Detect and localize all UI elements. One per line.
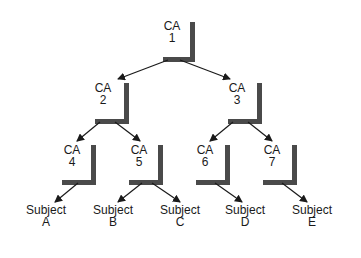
node-ca7: CA 7 bbox=[242, 144, 302, 168]
arrow-ca1-ca3 bbox=[180, 60, 230, 79]
node-ca6: CA 6 bbox=[175, 144, 235, 168]
node-ca1: CA 1 bbox=[142, 20, 202, 44]
arrow-ca3-ca7 bbox=[248, 122, 272, 141]
node-subject-d: Subject D bbox=[215, 204, 275, 228]
node-subject-b: Subject B bbox=[83, 204, 143, 228]
arrow-ca3-ca6 bbox=[210, 122, 233, 141]
node-ca2: CA 2 bbox=[73, 82, 133, 106]
arrow-ca5-subjB bbox=[118, 183, 142, 202]
arrow-ca5-subjC bbox=[152, 183, 180, 202]
arrow-ca2-ca4 bbox=[77, 122, 100, 141]
node-subject-c: Subject C bbox=[150, 204, 210, 228]
arrow-ca7-subjE bbox=[282, 183, 307, 202]
arrow-ca4-subjA bbox=[55, 183, 78, 202]
arrow-ca1-ca2 bbox=[118, 60, 168, 79]
node-ca4: CA 4 bbox=[42, 144, 102, 168]
node-ca3: CA 3 bbox=[207, 82, 267, 106]
arrow-ca2-ca5 bbox=[115, 122, 140, 141]
ca-hierarchy-diagram: CA 1 CA 2 CA 3 CA 4 CA 5 CA 6 CA 7 Subje… bbox=[0, 0, 361, 258]
arrow-ca6-subjD bbox=[215, 183, 242, 202]
node-ca5: CA 5 bbox=[109, 144, 169, 168]
node-subject-e: Subject E bbox=[282, 204, 342, 228]
node-subject-a: Subject A bbox=[16, 204, 76, 228]
